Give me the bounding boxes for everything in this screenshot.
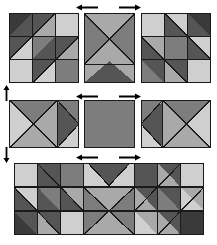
block-top-right[interactable] bbox=[141, 13, 211, 83]
block-top-left[interactable] bbox=[9, 13, 79, 83]
arrow-up-left-edge bbox=[3, 85, 10, 101]
quilt-diagram-canvas bbox=[0, 0, 217, 245]
arrow-right-top bbox=[119, 4, 141, 11]
block-middle-center[interactable] bbox=[84, 100, 135, 148]
arrow-right-middle bbox=[119, 93, 141, 100]
block-bottom-assembled[interactable] bbox=[14, 163, 204, 235]
arrow-left-bottom bbox=[76, 154, 98, 161]
arrow-right-bottom bbox=[119, 154, 141, 161]
block-middle-left[interactable] bbox=[9, 100, 79, 148]
block-middle-right[interactable] bbox=[141, 100, 211, 148]
block-top-center[interactable] bbox=[84, 13, 135, 83]
arrow-down-left-edge bbox=[3, 147, 10, 163]
arrow-left-middle bbox=[76, 93, 98, 100]
arrow-left-top bbox=[76, 4, 98, 11]
